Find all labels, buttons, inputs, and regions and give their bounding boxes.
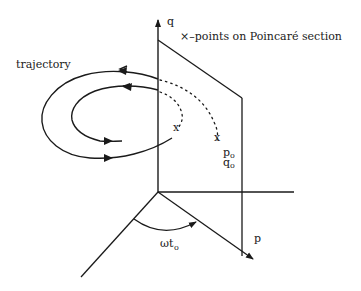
trajectory-arrows [104,67,132,162]
crossing-marker-1: x [173,121,180,134]
angle-label: ωt o [160,237,179,252]
svg-text:ωt: ωt [160,237,174,250]
time-axis [81,192,158,277]
p-axis-label: p [254,232,261,245]
svg-text:q: q [223,156,230,169]
svg-text:o: o [230,151,235,160]
svg-text:o: o [230,161,235,170]
poincare-diagram: x x trajectory ×–points on Poincaré sect… [0,0,361,291]
legend-label: ×–points on Poincaré section [180,30,342,43]
svg-text:o: o [174,243,179,252]
crossing-marker-2: x [214,131,221,144]
trajectory-curve [42,66,172,158]
q-axis-label: q [167,15,174,28]
angle-arc [134,219,196,230]
trajectory-label: trajectory [16,58,72,71]
dotted-continuation [160,80,218,140]
